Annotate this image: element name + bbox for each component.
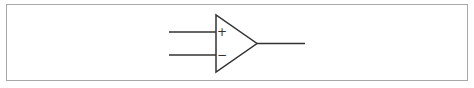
minus-sign: − [217, 48, 227, 62]
op-amp-diagram: + − [0, 0, 474, 88]
plus-sign: + [217, 25, 227, 39]
op-amp-triangle-icon [216, 15, 257, 72]
